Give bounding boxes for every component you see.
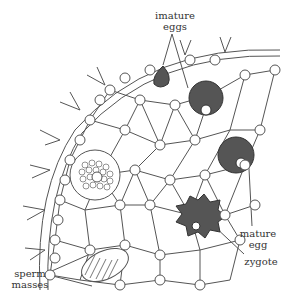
label-immature-line1: imature <box>150 10 200 21</box>
label-sperm-line1: sperm <box>10 268 50 279</box>
immature-egg-teardrop <box>154 66 170 87</box>
immature-egg-dark <box>189 81 223 115</box>
label-immature-eggs: imature eggs <box>150 10 200 32</box>
label-sperm-masses: sperm masses <box>10 268 50 290</box>
diagram-canvas: imature eggs mature egg zygote sperm mas… <box>0 0 284 303</box>
label-sperm-line2: masses <box>10 279 50 290</box>
zygote <box>176 194 226 238</box>
sperm-mass-round <box>70 150 120 200</box>
label-immature-line2: eggs <box>150 21 200 32</box>
label-zygote: zygote <box>240 256 282 267</box>
label-mature-line1: mature <box>234 228 282 239</box>
leader-immature-eggs-1 <box>163 34 172 65</box>
label-mature-line2: egg <box>234 239 282 250</box>
label-mature-egg: mature egg <box>234 228 282 250</box>
